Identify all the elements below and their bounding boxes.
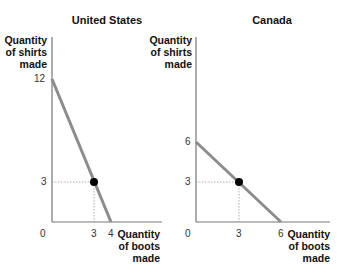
- us-y-label-line2: of shirts: [0, 46, 47, 58]
- ca-ytick-6: 6: [185, 136, 191, 147]
- us-x-label-line1: Quantity: [112, 228, 160, 240]
- ca-xtick-0: 0: [185, 228, 191, 239]
- us-chart-title: United States: [52, 14, 162, 26]
- ca-x-label-line1: Quantity: [282, 228, 330, 240]
- us-y-label-line3: made: [0, 58, 47, 70]
- ca-ytick-3: 3: [185, 176, 191, 187]
- us-xtick-3: 3: [91, 228, 97, 239]
- us-y-label-line1: Quantity: [0, 34, 47, 46]
- us-ppf-line: [52, 79, 111, 222]
- ca-x-label-line2: of boots: [282, 240, 330, 252]
- ca-y-label-line2: of shirts: [145, 46, 192, 58]
- ca-y-label-line3: made: [145, 58, 192, 70]
- ca-y-axis-label: Quantity of shirts made: [145, 34, 192, 70]
- ca-y-label-line1: Quantity: [145, 34, 192, 46]
- ca-point: [235, 178, 243, 186]
- us-ytick-12: 12: [34, 73, 45, 84]
- us-x-label-line3: made: [112, 252, 160, 264]
- ca-x-label-line3: made: [282, 252, 330, 264]
- ca-chart-title: Canada: [222, 14, 322, 26]
- us-xtick-0: 0: [40, 228, 46, 239]
- us-ytick-3: 3: [41, 176, 47, 187]
- ca-xtick-3: 3: [236, 228, 242, 239]
- ca-x-axis-label: Quantity of boots made: [282, 228, 330, 264]
- us-y-axis-label: Quantity of shirts made: [0, 34, 47, 70]
- us-x-axis-label: Quantity of boots made: [112, 228, 160, 264]
- us-x-label-line2: of boots: [112, 240, 160, 252]
- us-point: [90, 178, 98, 186]
